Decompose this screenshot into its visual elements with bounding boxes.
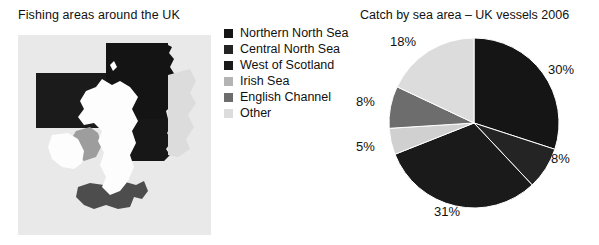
legend-swatch-other — [224, 109, 233, 118]
legend-label-west-of-scotland: West of Scotland — [240, 57, 334, 73]
pie-chart: 30%8%31%5%8%18% — [352, 0, 599, 245]
catch-by-sea-area-panel: Catch by sea area – UK vessels 2006 30%8… — [352, 0, 599, 245]
uk-fishing-areas-map — [18, 35, 211, 235]
pie-label-irish-sea: 5% — [356, 139, 375, 154]
legend-swatch-irish-sea — [224, 77, 233, 86]
legend-item-other: Other — [224, 105, 352, 121]
pie-chart-graphic: 30%8%31%5%8%18% — [352, 0, 599, 245]
pie-slice-group — [389, 38, 559, 208]
legend-swatch-central-north-sea — [224, 45, 233, 54]
legend-item-central-north-sea: Central North Sea — [224, 41, 352, 57]
map-title: Fishing areas around the UK — [18, 8, 180, 22]
legend-label-central-north-sea: Central North Sea — [240, 41, 340, 57]
fishing-areas-map-panel: Fishing areas around the UK — [0, 0, 218, 245]
legend-item-northern-north-sea: Northern North Sea — [224, 25, 352, 41]
legend-label-irish-sea: Irish Sea — [240, 73, 289, 89]
legend-swatch-west-of-scotland — [224, 61, 233, 70]
legend-item-irish-sea: Irish Sea — [224, 73, 352, 89]
legend-swatch-english-channel — [224, 93, 233, 102]
legend-item-west-of-scotland: West of Scotland — [224, 57, 352, 73]
legend-label-other: Other — [240, 105, 271, 121]
legend-label-english-channel: English Channel — [240, 89, 331, 105]
pie-label-central-north-sea: 8% — [551, 151, 570, 166]
pie-label-west-of-scotland: 31% — [434, 204, 460, 219]
pie-label-english-channel: 8% — [356, 94, 375, 109]
pie-label-northern-north-sea: 30% — [548, 62, 574, 77]
legend-item-english-channel: English Channel — [224, 89, 352, 105]
legend-swatch-northern-north-sea — [224, 29, 233, 38]
legend-label-northern-north-sea: Northern North Sea — [240, 25, 348, 41]
map-graphic — [18, 35, 211, 235]
pie-label-other: 18% — [390, 34, 416, 49]
chart-legend: Northern North Sea Central North Sea Wes… — [224, 25, 352, 121]
